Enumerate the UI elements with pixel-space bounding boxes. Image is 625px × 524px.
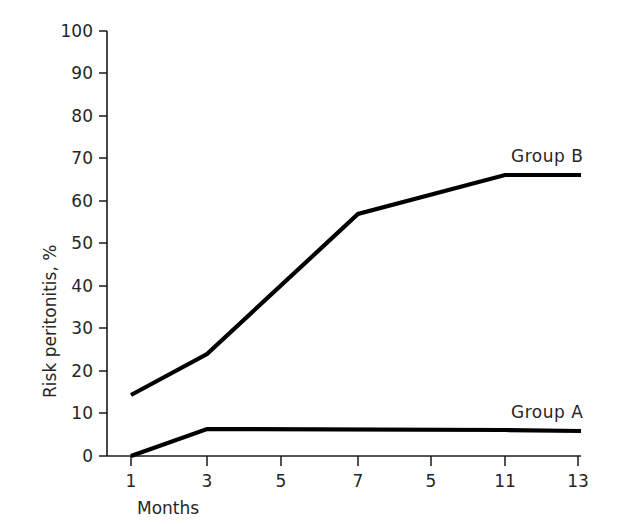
y-tick-label-40: 40	[71, 276, 93, 296]
y-tick-label-100: 100	[61, 21, 93, 41]
line-chart: 100 90 80 70 60 50 40 30 20 10 0 1 3 5	[0, 0, 625, 524]
x-tick-label-9: 5	[426, 471, 437, 491]
x-tick-label-11: 11	[494, 471, 516, 491]
y-tick-label-30: 30	[71, 318, 93, 338]
y-tick-label-10: 10	[71, 403, 93, 423]
y-tick-label-70: 70	[71, 148, 93, 168]
series-line-group-b	[131, 175, 581, 395]
x-tick-label-3: 3	[202, 471, 213, 491]
x-tick-label-5: 5	[276, 471, 287, 491]
y-tick-label-60: 60	[71, 191, 93, 211]
y-axis-ticks	[99, 31, 107, 456]
y-axis-title: Risk peritonitis, %	[40, 245, 60, 398]
series-label-group-a: Group A	[511, 402, 583, 422]
y-tick-label-0: 0	[82, 446, 93, 466]
y-tick-label-20: 20	[71, 361, 93, 381]
x-axis-ticks	[131, 456, 578, 466]
chart-figure: 100 90 80 70 60 50 40 30 20 10 0 1 3 5	[0, 0, 625, 524]
y-tick-label-80: 80	[71, 106, 93, 126]
x-axis-tick-labels: 1 3 5 7 5 11 13	[126, 471, 589, 491]
series-label-group-b: Group B	[511, 146, 583, 166]
x-tick-label-7: 7	[353, 471, 364, 491]
y-tick-label-90: 90	[71, 63, 93, 83]
x-tick-label-1: 1	[126, 471, 137, 491]
y-tick-label-50: 50	[71, 233, 93, 253]
x-tick-label-13: 13	[567, 471, 589, 491]
x-axis-title: Months	[137, 498, 199, 518]
y-axis-tick-labels: 100 90 80 70 60 50 40 30 20 10 0	[61, 21, 93, 466]
series-line-group-a	[131, 429, 581, 456]
